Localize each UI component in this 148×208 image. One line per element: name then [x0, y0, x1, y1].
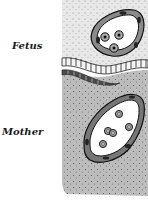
placenta-diagram	[0, 0, 148, 208]
